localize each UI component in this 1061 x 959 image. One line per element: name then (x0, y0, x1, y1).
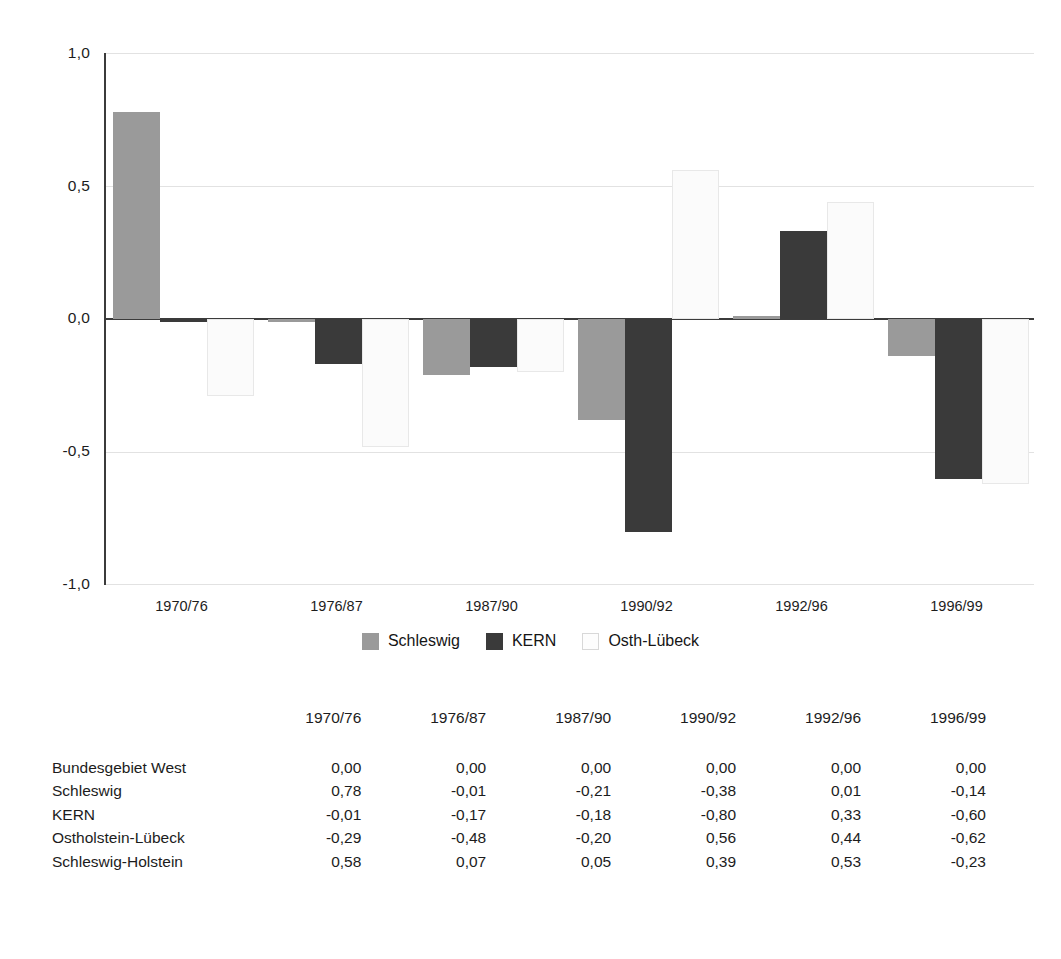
bar-osth-1976-87 (362, 319, 409, 447)
table-corner-cell (52, 706, 262, 756)
x-axis-labels: 1970/761976/871987/901990/921992/961996/… (104, 598, 1034, 620)
legend-entry-schleswig: Schleswig (362, 632, 460, 650)
y-tick-label: -0,5 (62, 442, 90, 460)
bar-schleswig-1990-92 (578, 319, 625, 420)
bar-osth-1990-92 (672, 170, 719, 319)
table-cell-value: 0,78 (262, 779, 387, 803)
table-cell-value: 0,05 (512, 850, 637, 874)
table-column-header: 1976/87 (387, 706, 512, 756)
table-row: Ostholstein-Lübeck-0,29-0,48-0,200,560,4… (52, 826, 1012, 850)
bar-schleswig-1987-90 (423, 319, 470, 375)
legend-swatch-icon (582, 633, 599, 650)
bar-schleswig-1976-87 (268, 319, 315, 322)
legend-entry-osth-luebeck: Osth-Lübeck (582, 632, 699, 650)
y-axis-labels: 1,0 0,5 0,0 -0,5 -1,0 (0, 0, 104, 690)
legend-entry-kern: KERN (486, 632, 556, 650)
x-tick-label: 1976/87 (259, 598, 414, 614)
table-cell-value: 0,00 (637, 756, 762, 780)
bar-osth-1992-96 (827, 202, 874, 319)
x-tick-label: 1987/90 (414, 598, 569, 614)
bar-kern-1976-87 (315, 319, 362, 364)
legend-swatch-icon (362, 633, 379, 650)
table-cell-value: 0,00 (387, 756, 512, 780)
bar-kern-1970-76 (160, 319, 207, 322)
data-table: 1970/761976/871987/901990/921992/961996/… (52, 706, 1012, 873)
legend-label: Osth-Lübeck (608, 632, 699, 650)
bar-schleswig-1970-76 (113, 112, 160, 319)
bar-chart-figure: 1,0 0,5 0,0 -0,5 -1,0 1970/761976/871987… (0, 0, 1061, 690)
bar-kern-1990-92 (625, 319, 672, 532)
table-row-label: KERN (52, 803, 262, 827)
table-cell-value: -0,18 (512, 803, 637, 827)
table-cell-value: 0,58 (262, 850, 387, 874)
table-row-label: Schleswig (52, 779, 262, 803)
table-cell-value: 0,01 (762, 779, 887, 803)
gridline-neg-0-5 (106, 452, 1034, 453)
table-header: 1970/761976/871987/901990/921992/961996/… (52, 706, 1012, 756)
table-column-header: 1970/76 (262, 706, 387, 756)
table-row-label: Schleswig-Holstein (52, 850, 262, 874)
table-cell-value: 0,56 (637, 826, 762, 850)
table-column-header: 1987/90 (512, 706, 637, 756)
table-row: Bundesgebiet West0,000,000,000,000,000,0… (52, 756, 1012, 780)
bar-kern-1996-99 (935, 319, 982, 479)
bar-osth-1987-90 (517, 319, 564, 372)
y-tick-label: 0,0 (68, 309, 90, 327)
x-tick-label: 1992/96 (724, 598, 879, 614)
x-tick-label: 1970/76 (104, 598, 259, 614)
table-column-header: 1996/99 (887, 706, 1012, 756)
y-tick-label: 0,5 (68, 177, 90, 195)
table-row: Schleswig-Holstein0,580,070,050,390,53-0… (52, 850, 1012, 874)
table-cell-value: -0,21 (512, 779, 637, 803)
table-cell-value: 0,39 (637, 850, 762, 874)
table-body: Bundesgebiet West0,000,000,000,000,000,0… (52, 756, 1012, 874)
gridline-neg-1-0 (106, 584, 1034, 585)
table-row-label: Ostholstein-Lübeck (52, 826, 262, 850)
bar-osth-1970-76 (207, 319, 254, 396)
gridline-0-5 (106, 186, 1034, 187)
legend-label: Schleswig (388, 632, 460, 650)
bar-schleswig-1996-99 (888, 319, 935, 356)
table-cell-value: 0,00 (262, 756, 387, 780)
table-cell-value: 0,00 (762, 756, 887, 780)
table-cell-value: -0,17 (387, 803, 512, 827)
table-cell-value: -0,20 (512, 826, 637, 850)
table-row: Schleswig0,78-0,01-0,21-0,380,01-0,14 (52, 779, 1012, 803)
bar-schleswig-1992-96 (733, 316, 780, 319)
table-cell-value: -0,23 (887, 850, 1012, 874)
bar-osth-1996-99 (982, 319, 1029, 484)
table-cell-value: -0,62 (887, 826, 1012, 850)
chart-legend: Schleswig KERN Osth-Lübeck (0, 632, 1061, 650)
table-cell-value: -0,14 (887, 779, 1012, 803)
table-cell-value: 0,00 (887, 756, 1012, 780)
gridline-1-0 (106, 53, 1034, 54)
table-cell-value: -0,60 (887, 803, 1012, 827)
table-header-row: 1970/761976/871987/901990/921992/961996/… (52, 706, 1012, 756)
table-row-label: Bundesgebiet West (52, 756, 262, 780)
table-row: KERN-0,01-0,17-0,18-0,800,33-0,60 (52, 803, 1012, 827)
bar-kern-1987-90 (470, 319, 517, 367)
table-cell-value: -0,38 (637, 779, 762, 803)
legend-label: KERN (512, 632, 556, 650)
legend-swatch-icon (486, 633, 503, 650)
table-column-header: 1992/96 (762, 706, 887, 756)
table-cell-value: 0,33 (762, 803, 887, 827)
y-tick-label: 1,0 (68, 44, 90, 62)
table-cell-value: -0,80 (637, 803, 762, 827)
table-cell-value: -0,01 (262, 803, 387, 827)
table-cell-value: -0,01 (387, 779, 512, 803)
bar-kern-1992-96 (780, 231, 827, 319)
table-cell-value: 0,00 (512, 756, 637, 780)
y-tick-label: -1,0 (62, 575, 90, 593)
table-cell-value: -0,48 (387, 826, 512, 850)
table-cell-value: 0,53 (762, 850, 887, 874)
table-cell-value: -0,29 (262, 826, 387, 850)
x-tick-label: 1990/92 (569, 598, 724, 614)
table-column-header: 1990/92 (637, 706, 762, 756)
plot-area (104, 53, 1034, 585)
x-tick-label: 1996/99 (879, 598, 1034, 614)
table-cell-value: 0,07 (387, 850, 512, 874)
table-cell-value: 0,44 (762, 826, 887, 850)
